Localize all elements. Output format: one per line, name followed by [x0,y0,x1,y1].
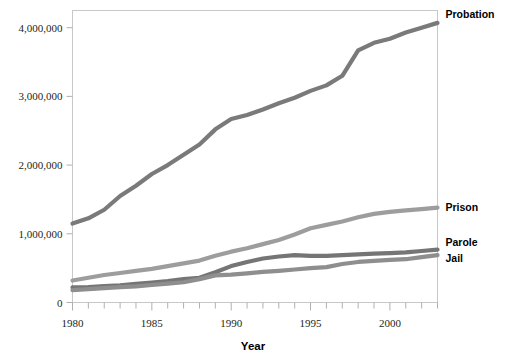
y-tick-label: 1,000,000 [19,228,64,240]
line-chart: 01,000,0002,000,0003,000,0004,000,000 19… [0,0,505,360]
y-tick-label: 2,000,000 [19,159,64,171]
x-tick-label: 1980 [62,317,85,329]
x-tick-label: 1985 [141,317,164,329]
x-tick-label: 1995 [300,317,323,329]
chart-container: 01,000,0002,000,0003,000,0004,000,000 19… [0,0,505,360]
series-label-parole: Parole [446,236,478,248]
y-tick-label: 3,000,000 [19,90,64,102]
x-axis-title: Year [241,340,266,352]
series-label-jail: Jail [446,252,464,264]
x-tick-label: 1990 [220,317,243,329]
series-label-prison: Prison [446,201,479,213]
y-tick-label: 4,000,000 [19,22,64,34]
x-tick-label: 2000 [379,317,402,329]
chart-background [0,0,505,360]
series-label-probation: Probation [446,8,495,20]
y-tick-label: 0 [57,297,63,309]
